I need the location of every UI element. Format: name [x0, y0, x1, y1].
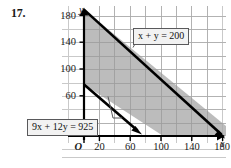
- y-axis-label: y: [79, 5, 83, 15]
- x-tick-label-60: 60: [116, 142, 144, 153]
- x-tick-label-100: 100: [147, 142, 175, 153]
- origin-label: O: [75, 142, 83, 153]
- callout-label-lower-line: 9x + 12y = 925: [27, 119, 98, 136]
- x-axis-label: x: [220, 139, 224, 149]
- callout-label-upper-line: x + y = 200: [133, 28, 189, 45]
- x-tick-label-140: 140: [178, 142, 206, 153]
- y-tick-label-180: 180: [38, 11, 76, 22]
- y-tick-label-100: 100: [38, 64, 76, 75]
- figure-container: 17.: [0, 0, 231, 168]
- y-tick-label-60: 60: [38, 91, 76, 102]
- y-tick-label-140: 140: [38, 37, 76, 48]
- problem-number: 17.: [11, 6, 25, 21]
- x-tick-label-20: 20: [85, 142, 113, 153]
